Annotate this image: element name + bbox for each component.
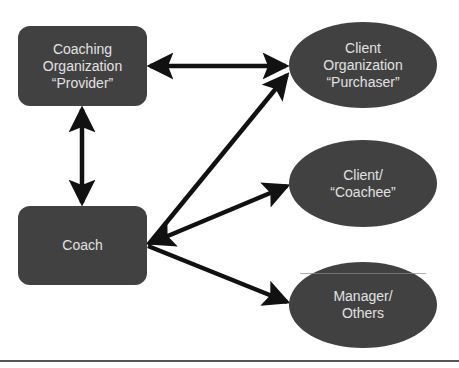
node-label-line: Organization: [43, 58, 122, 75]
edge-coach-manager: [148, 246, 287, 302]
node-label-line: “Provider”: [52, 75, 113, 92]
node-manager-others: Manager/ Others: [289, 262, 437, 348]
node-label-line: Manager/: [333, 288, 392, 305]
edge-coach-purchaser: [148, 75, 287, 245]
node-label-line: Coach: [62, 237, 102, 254]
node-label-line: “Purchaser”: [326, 74, 399, 91]
node-label-line: Client/: [343, 167, 383, 184]
node-coach: Coach: [18, 206, 147, 285]
node-client-organization-purchaser: Client Organization “Purchaser”: [289, 22, 437, 108]
node-label-line: “Coachee”: [330, 184, 395, 201]
node-label-line: Organization: [323, 57, 402, 74]
node-client-coachee: Client/ “Coachee”: [289, 140, 437, 227]
node-label-line: Client: [345, 40, 381, 57]
caption-divider: [0, 360, 459, 362]
node-coaching-organization-provider: Coaching Organization “Provider”: [18, 26, 147, 106]
node-label-line: Others: [342, 305, 384, 322]
node-label-line: Coaching: [53, 41, 112, 58]
diagram-canvas: Coaching Organization “Provider” Coach C…: [0, 0, 459, 368]
scan-artifact-line: [300, 273, 426, 274]
